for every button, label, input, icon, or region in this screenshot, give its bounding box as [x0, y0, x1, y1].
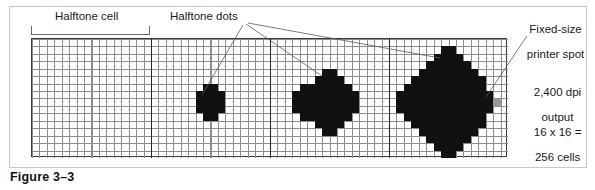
printer-spot	[486, 99, 493, 106]
printer-spot	[456, 91, 463, 98]
printer-spot	[411, 76, 418, 83]
printer-spot	[449, 136, 456, 143]
printer-spot	[486, 91, 493, 98]
printer-spot	[315, 76, 322, 83]
printer-spot	[441, 91, 448, 98]
printer-spot	[396, 91, 403, 98]
printer-spot	[426, 91, 433, 98]
printer-spot	[449, 143, 456, 150]
printer-spot	[456, 76, 463, 83]
figure-root: Halftone cell Halftone dots Fixed-size p…	[0, 0, 595, 190]
printer-spot	[456, 106, 463, 113]
printer-spot	[486, 106, 493, 113]
label-resolution-line1: 2,400 dpi	[534, 86, 581, 98]
printer-spot	[456, 69, 463, 76]
printer-spot	[434, 128, 441, 135]
printer-spot	[211, 91, 218, 98]
printer-spot	[330, 106, 337, 113]
printer-spot	[419, 99, 426, 106]
printer-spot	[463, 136, 470, 143]
printer-spot	[441, 113, 448, 120]
printer-spot	[300, 113, 307, 120]
printer-spot	[426, 128, 433, 135]
printer-spot	[463, 99, 470, 106]
printer-spot	[307, 91, 314, 98]
printer-spot	[449, 46, 456, 53]
halftone-dot-3	[270, 39, 389, 158]
printer-spot	[404, 84, 411, 91]
printer-spot	[211, 99, 218, 106]
printer-spot	[441, 128, 448, 135]
printer-spot	[218, 106, 225, 113]
printer-spot	[337, 99, 344, 106]
printer-spot	[434, 136, 441, 143]
printer-spot	[315, 84, 322, 91]
printer-spot	[419, 106, 426, 113]
printer-spot	[203, 84, 210, 91]
printer-spot	[434, 84, 441, 91]
printer-spot	[203, 99, 210, 106]
printer-spot	[411, 121, 418, 128]
printer-spot	[478, 99, 485, 106]
printer-spot	[322, 99, 329, 106]
printer-spot	[463, 113, 470, 120]
printer-spot	[211, 106, 218, 113]
printer-spot	[196, 99, 203, 106]
printer-spot	[411, 113, 418, 120]
printer-spot	[471, 84, 478, 91]
printer-spot	[434, 91, 441, 98]
printer-spot	[478, 106, 485, 113]
printer-spot	[471, 91, 478, 98]
printer-spot	[456, 121, 463, 128]
printer-spot	[441, 121, 448, 128]
printer-spot	[352, 99, 359, 106]
printer-spot	[337, 91, 344, 98]
halftone-cell-1	[32, 39, 151, 158]
printer-spot	[330, 128, 337, 135]
printer-spot	[196, 106, 203, 113]
printer-spot	[344, 113, 351, 120]
printer-spot	[411, 91, 418, 98]
printer-spot	[203, 91, 210, 98]
printer-spot	[315, 99, 322, 106]
printer-spot	[344, 91, 351, 98]
halftone-dot-4	[389, 39, 508, 158]
printer-spot	[449, 99, 456, 106]
printer-spot	[478, 91, 485, 98]
printer-spot	[396, 106, 403, 113]
printer-spot	[396, 99, 403, 106]
printer-spot	[434, 106, 441, 113]
printer-spot	[449, 69, 456, 76]
printer-spot	[449, 121, 456, 128]
printer-spot	[352, 106, 359, 113]
printer-spot	[456, 54, 463, 61]
halftone-dot-1	[32, 39, 151, 158]
printer-spot	[203, 106, 210, 113]
printer-spot	[419, 128, 426, 135]
printer-spot	[463, 91, 470, 98]
printer-spot	[471, 76, 478, 83]
halftone-cell-2	[151, 39, 270, 158]
cell-divider-1	[151, 39, 152, 158]
printer-spot	[337, 113, 344, 120]
printer-spot	[411, 84, 418, 91]
printer-spot	[322, 106, 329, 113]
printer-spot	[441, 69, 448, 76]
cell-divider-2	[270, 39, 271, 158]
halftone-cell-4	[389, 39, 508, 158]
printer-spot	[307, 84, 314, 91]
printer-spot	[434, 54, 441, 61]
printer-spot	[322, 91, 329, 98]
printer-spot	[419, 76, 426, 83]
printer-spot	[441, 76, 448, 83]
printer-spot	[434, 76, 441, 83]
printer-spot	[471, 121, 478, 128]
printer-spot	[307, 99, 314, 106]
printer-spot	[434, 143, 441, 150]
printer-spot	[463, 69, 470, 76]
printer-spot	[441, 54, 448, 61]
printer-spot	[456, 113, 463, 120]
printer-spot	[449, 151, 456, 158]
printer-spot	[456, 136, 463, 143]
printer-spot	[449, 113, 456, 120]
